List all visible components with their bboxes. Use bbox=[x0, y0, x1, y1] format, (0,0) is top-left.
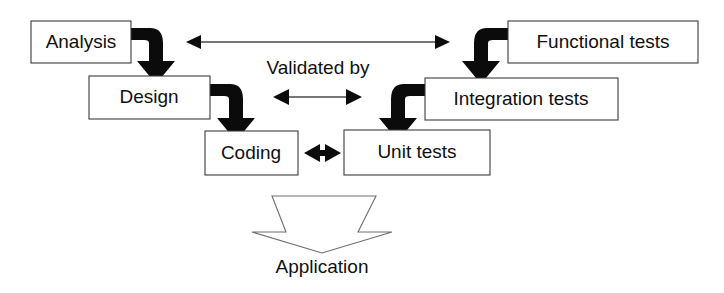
box-coding-label: Coding bbox=[221, 142, 281, 163]
box-design[interactable]: Design bbox=[89, 76, 210, 119]
coding-unit-tests-arrow-head-right bbox=[325, 144, 341, 162]
box-integration-tests[interactable]: Integration tests bbox=[425, 78, 618, 120]
vmodel-diagram: Analysis Design Coding Unit tests Integr… bbox=[0, 0, 724, 293]
box-unit-tests[interactable]: Unit tests bbox=[344, 130, 490, 175]
application-chevron-icon bbox=[252, 196, 392, 253]
box-integration-tests-label: Integration tests bbox=[453, 88, 588, 109]
box-analysis-label: Analysis bbox=[46, 31, 117, 52]
coding-unit-tests-arrow-head-left bbox=[304, 144, 320, 162]
coding-unit-tests-arrow bbox=[304, 144, 341, 162]
box-design-label: Design bbox=[119, 86, 178, 107]
box-coding[interactable]: Coding bbox=[205, 131, 298, 175]
validated-by-middle-arrow-head-right bbox=[346, 89, 362, 105]
validated-by-top-arrow-head-left bbox=[186, 35, 201, 49]
box-functional-tests[interactable]: Functional tests bbox=[508, 21, 698, 63]
box-unit-tests-label: Unit tests bbox=[377, 141, 456, 162]
validated-by-top-arrow bbox=[186, 35, 450, 49]
box-analysis[interactable]: Analysis bbox=[31, 21, 131, 63]
vmodel-canvas: Analysis Design Coding Unit tests Integr… bbox=[0, 0, 724, 293]
application-label: Application bbox=[276, 256, 369, 277]
validated-by-top-arrow-head-right bbox=[435, 35, 450, 49]
functional-to-integration-arrow bbox=[462, 28, 513, 84]
functional-to-integration-arrow-path bbox=[462, 28, 513, 84]
validated-by-middle-arrow bbox=[273, 89, 362, 105]
validated-by-middle-arrow-head-left bbox=[273, 89, 289, 105]
validated-by-label: Validated by bbox=[266, 57, 370, 78]
box-functional-tests-label: Functional tests bbox=[536, 31, 669, 52]
